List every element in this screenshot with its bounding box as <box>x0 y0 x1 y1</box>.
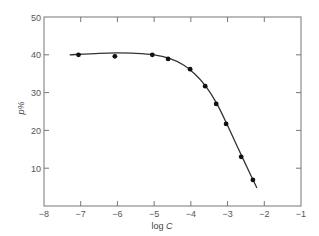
data-point <box>251 178 256 183</box>
y-tick-label: 40 <box>31 50 41 60</box>
x-axis-label: log C <box>151 221 173 231</box>
data-points <box>76 52 255 182</box>
y-tick-label: 50 <box>31 13 41 23</box>
x-tick-label: −4 <box>186 209 196 219</box>
data-point <box>188 67 193 72</box>
y-axis-label: p% <box>16 101 26 115</box>
x-tick-labels: −8−7−6−5−4−3−2−1 <box>39 209 306 219</box>
y-tick-label: 30 <box>31 88 41 98</box>
y-tick-label: 10 <box>31 164 41 174</box>
fitted-curve <box>70 53 257 188</box>
x-tick-label: −5 <box>149 209 159 219</box>
plot-border <box>44 17 301 206</box>
data-point <box>214 102 219 107</box>
data-point <box>76 52 81 57</box>
data-point <box>239 154 244 159</box>
x-tick-label: −6 <box>112 209 122 219</box>
data-point <box>224 122 229 127</box>
data-point <box>203 84 208 89</box>
x-tick-label: −1 <box>296 209 306 219</box>
x-tick-label: −3 <box>222 209 232 219</box>
data-point <box>112 54 117 59</box>
data-point <box>150 52 155 57</box>
y-tick-label: 20 <box>31 126 41 136</box>
plot-frame <box>44 17 301 206</box>
x-tick-label: −7 <box>76 209 86 219</box>
axis-ticks <box>44 17 301 206</box>
data-point <box>166 57 171 62</box>
x-tick-label: −2 <box>259 209 269 219</box>
chart: −8−7−6−5−4−3−2−1 1020304050 log C p% <box>0 0 319 236</box>
x-tick-label: −8 <box>39 209 49 219</box>
y-tick-labels: 1020304050 <box>31 13 41 174</box>
